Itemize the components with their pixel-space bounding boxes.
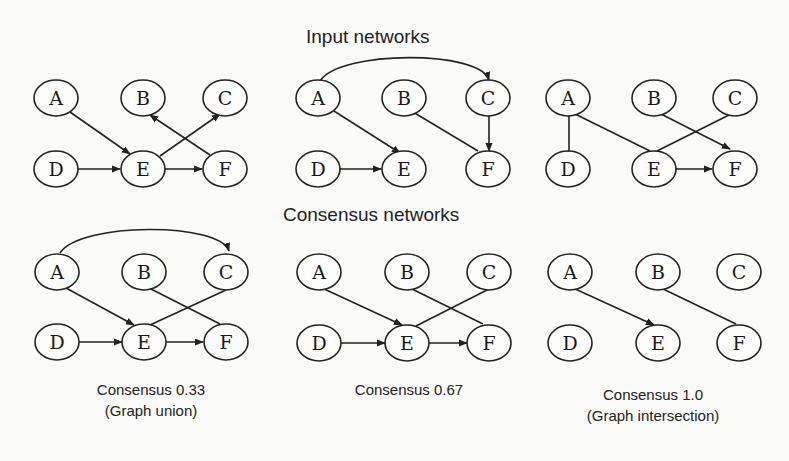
node-a: A (548, 254, 592, 290)
caption-consensus-067: Consensus 0.67 (334, 379, 484, 400)
node-c: C (717, 254, 761, 290)
caption-line-1: Consensus 0.67 (334, 379, 484, 400)
caption-line-1: Consensus 0.33 (76, 379, 226, 400)
edge-b-f (661, 288, 736, 324)
node-b: B (636, 254, 680, 290)
caption-line-2: (Graph union) (76, 400, 226, 421)
edge-a-e (573, 288, 654, 325)
svg-text:A: A (562, 261, 577, 283)
svg-text:F: F (732, 332, 745, 354)
caption-consensus-033: Consensus 0.33 (Graph union) (76, 379, 226, 421)
svg-text:E: E (651, 332, 665, 354)
node-f: F (717, 325, 761, 361)
node-e: E (636, 325, 680, 361)
caption-line-2: (Graph intersection) (563, 405, 743, 426)
svg-text:C: C (732, 261, 747, 283)
caption-line-1: Consensus 1.0 (563, 384, 743, 405)
caption-consensus-100: Consensus 1.0 (Graph intersection) (563, 384, 743, 426)
node-d: D (548, 325, 592, 361)
svg-text:B: B (651, 261, 665, 283)
svg-text:D: D (562, 332, 577, 354)
